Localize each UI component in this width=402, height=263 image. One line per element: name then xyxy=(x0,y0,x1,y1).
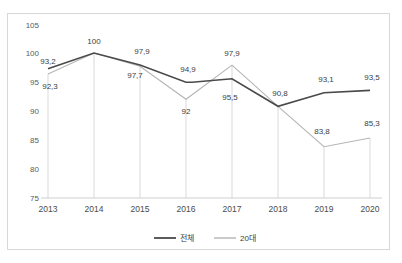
y-tick-label: 85 xyxy=(30,136,39,145)
data-label: 95,5 xyxy=(222,93,238,102)
data-label: 93,5 xyxy=(364,73,380,82)
x-tick-label: 2020 xyxy=(361,204,380,214)
y-tick-label: 105 xyxy=(26,21,40,30)
data-label: 100 xyxy=(87,37,101,46)
data-label: 97,9 xyxy=(224,49,240,58)
data-label: 92 xyxy=(182,107,191,116)
x-tick-label: 2015 xyxy=(131,204,150,214)
data-label: 97,7 xyxy=(127,71,143,80)
line-chart: 105 100 95 90 85 80 75 93,2 100 xyxy=(8,14,391,251)
y-tick-label: 100 xyxy=(26,49,40,58)
y-tick-label: 90 xyxy=(30,107,39,116)
y-tick-label: 80 xyxy=(30,165,39,174)
data-label: 90,8 xyxy=(272,89,288,98)
data-label: 83,8 xyxy=(314,127,330,136)
chart-container: 105 100 95 90 85 80 75 93,2 100 xyxy=(7,13,390,250)
x-tick-label: 2019 xyxy=(315,204,334,214)
y-tick-label: 75 xyxy=(30,194,39,203)
x-tick-label: 2013 xyxy=(39,204,58,214)
x-tick-label: 2016 xyxy=(177,204,196,214)
data-label: 97,9 xyxy=(134,47,150,56)
chart-legend: 전체 20대 xyxy=(154,233,256,243)
legend-label-twenties[interactable]: 20대 xyxy=(240,234,256,243)
data-label: 94,9 xyxy=(180,65,196,74)
data-label: 85,3 xyxy=(364,119,380,128)
x-tick-label: 2014 xyxy=(85,204,104,214)
y-tick-label: 95 xyxy=(30,78,39,87)
y-axis-ticks: 105 100 95 90 85 80 75 xyxy=(26,21,40,203)
x-axis-ticks: 2013 2014 2015 2016 2017 2018 2019 2020 xyxy=(39,204,380,214)
legend-label-total[interactable]: 전체 xyxy=(180,233,194,243)
x-tick-label: 2017 xyxy=(223,204,242,214)
data-label: 92,3 xyxy=(42,82,58,91)
data-label: 93,1 xyxy=(318,75,334,84)
data-label: 93,2 xyxy=(40,57,56,66)
x-tick-label: 2018 xyxy=(269,204,288,214)
